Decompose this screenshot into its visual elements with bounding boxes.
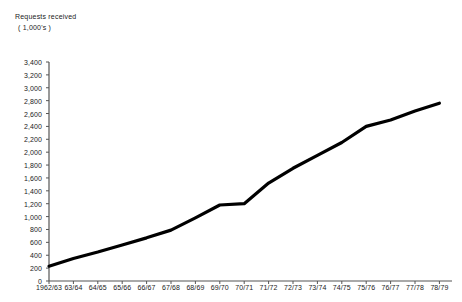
data-series-line [49, 103, 439, 266]
y-axis-tick-label: 2,600 [8, 110, 42, 117]
x-axis-tick-label: 65/66 [113, 284, 131, 291]
x-axis-tick-label: 64/65 [89, 284, 107, 291]
y-axis-tick-label: 600 [8, 239, 42, 246]
x-axis-tick-label: 70/71 [235, 284, 253, 291]
x-axis-tick-label: 74/75 [333, 284, 351, 291]
x-axis-tick-label: 76/77 [382, 284, 400, 291]
x-axis-tick-label: 69/70 [211, 284, 229, 291]
y-axis-tick-label: 400 [8, 252, 42, 259]
y-axis-tick-label: 3,400 [8, 59, 42, 66]
y-axis-tick-label: 2,400 [8, 123, 42, 130]
chart-page: Requests received ( 1,000's ) 3,4003,200… [0, 0, 462, 302]
x-axis-tick-label: 71/72 [260, 284, 278, 291]
y-axis-tick-label: 200 [8, 265, 42, 272]
x-axis-tick-label: 66/67 [138, 284, 156, 291]
x-axis-tick-label: 75/76 [357, 284, 375, 291]
y-axis-tick-label: 3,200 [8, 71, 42, 78]
y-axis-tick-label: 1,600 [8, 174, 42, 181]
x-axis-tick-label: 63/64 [64, 284, 82, 291]
y-axis-tick-label: 1,800 [8, 162, 42, 169]
chart-svg [0, 0, 462, 302]
y-axis-tick-label: 2,200 [8, 136, 42, 143]
y-axis-tick-label: 800 [8, 226, 42, 233]
x-axis-tick-label: 77/78 [406, 284, 424, 291]
plot-area: 3,4003,2003,0002,8002,6002,4002,2002,000… [0, 0, 462, 302]
x-axis-tick-label: 1962/63 [36, 284, 62, 291]
y-axis-tick-label: 3,000 [8, 84, 42, 91]
y-axis-tick-label: 2,800 [8, 97, 42, 104]
x-axis-tick-label: 68/69 [186, 284, 204, 291]
y-axis-tick-label: 2,000 [8, 149, 42, 156]
y-axis-tick-label: 1,000 [8, 213, 42, 220]
x-axis-tick-label: 72/73 [284, 284, 302, 291]
x-axis-tick-label: 78/79 [430, 284, 448, 291]
y-axis-tick-label: 1,400 [8, 187, 42, 194]
x-axis-tick-label: 73/74 [308, 284, 326, 291]
x-axis-tick-label: 67/68 [162, 284, 180, 291]
y-axis-tick-label: 1,200 [8, 200, 42, 207]
